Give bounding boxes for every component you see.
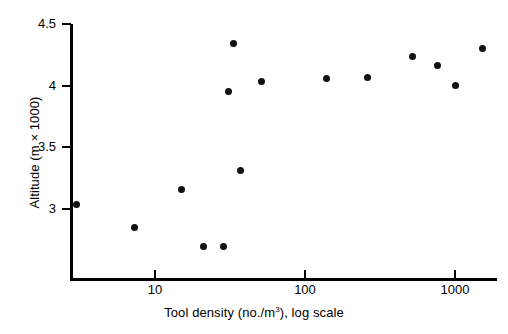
x-axis-label: Tool density (no./m3), log scale — [0, 305, 508, 320]
x-axis-label-pre: Tool density (no./m — [164, 305, 275, 320]
data-point — [73, 201, 80, 208]
x-axis-label-post: ), log scale — [280, 305, 344, 320]
data-point — [237, 167, 244, 174]
data-point — [225, 88, 232, 95]
data-point — [434, 62, 441, 69]
data-point — [364, 74, 371, 81]
data-point — [452, 82, 459, 89]
data-point — [258, 78, 265, 85]
data-point — [220, 243, 227, 250]
data-point — [178, 186, 185, 193]
data-point-layer — [0, 0, 508, 334]
data-point — [479, 45, 486, 52]
scatter-plot-figure: Altitude (m × 1000) 33.544.5101001000 To… — [0, 0, 508, 334]
data-point — [230, 40, 237, 47]
data-point — [323, 75, 330, 82]
data-point — [200, 243, 207, 250]
data-point — [409, 53, 416, 60]
data-point — [131, 224, 138, 231]
